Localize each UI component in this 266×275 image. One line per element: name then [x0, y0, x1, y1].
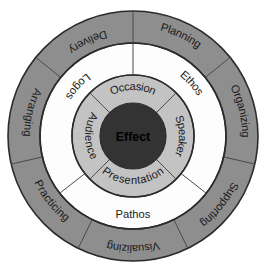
rhetoric-wheel-diagram: PlanningOrganizingSupportingVisualizingP…: [0, 0, 266, 275]
middle-label-pathos: Pathos: [116, 208, 151, 220]
core-group: Effect: [100, 103, 166, 169]
wheel-svg: PlanningOrganizingSupportingVisualizingP…: [0, 0, 266, 275]
core-label: Effect: [116, 130, 150, 144]
